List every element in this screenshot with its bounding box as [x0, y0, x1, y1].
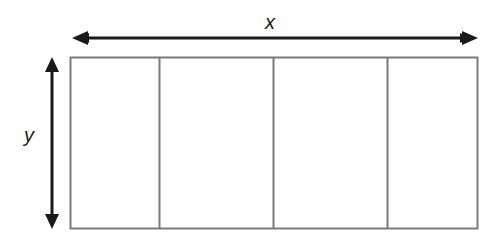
width-arrow-right-head-icon	[462, 31, 478, 45]
width-label: x	[265, 12, 275, 32]
height-arrow-bottom-head-icon	[45, 214, 59, 229]
height-label: y	[24, 125, 34, 145]
width-arrow-left-head-icon	[72, 31, 88, 45]
dimension-diagram	[0, 0, 501, 244]
height-arrow-top-head-icon	[45, 57, 59, 72]
